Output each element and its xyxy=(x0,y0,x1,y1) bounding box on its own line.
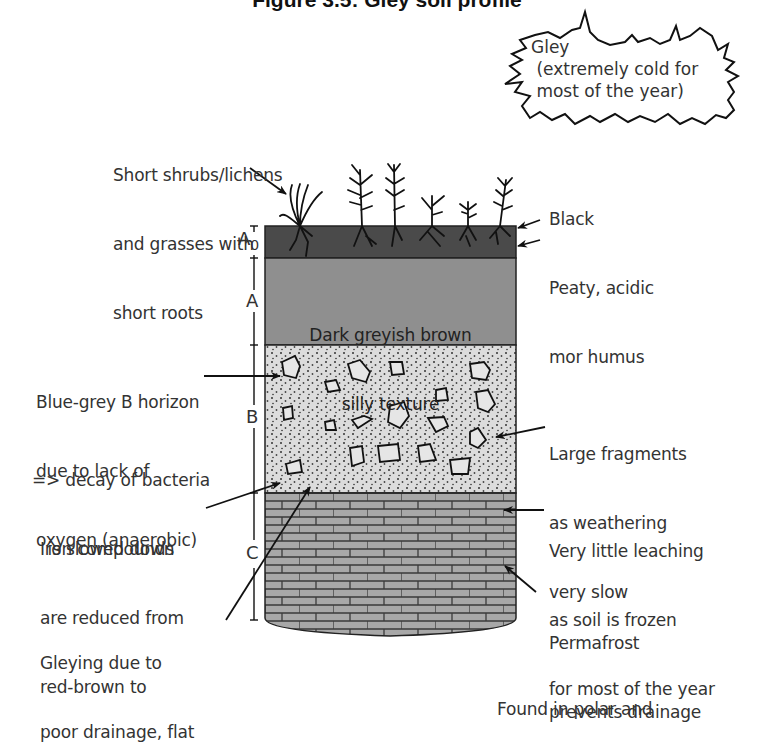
annotation-vegetation: Short shrubs/lichens and grasses with sh… xyxy=(113,118,282,348)
callout-title: Gley xyxy=(531,36,569,58)
horizon-a-description: Dark greyish brown silly texture xyxy=(265,278,516,439)
decay-line-1: => decay of bacteria xyxy=(32,469,210,492)
vegetation-line-3: short roots xyxy=(113,302,282,325)
peaty-line-1: Peaty, acidic xyxy=(549,277,654,300)
annotation-found: Found in polar and arctic regions xyxy=(497,652,652,742)
blue-grey-line-1: Blue-grey B horizon xyxy=(36,391,199,414)
leaching-line-1: Very little leaching xyxy=(549,540,715,563)
peaty-line-2: mor humus xyxy=(549,346,654,369)
vegetation-line-2: and grasses with xyxy=(113,233,282,256)
annotation-peaty: Peaty, acidic mor humus xyxy=(549,231,654,392)
annotation-gleying: Gleying due to poor drainage, flat land … xyxy=(40,606,213,742)
iron-line-1: Iron compounds xyxy=(40,538,184,561)
horizon-a-text-1: Dark greyish brown xyxy=(265,324,516,347)
horizon-label-c: C xyxy=(246,542,259,563)
gleying-line-1: Gleying due to xyxy=(40,652,213,675)
horizon-a-text-2: silly texture xyxy=(265,393,516,416)
horizon-c xyxy=(265,493,516,636)
gleying-line-2: poor drainage, flat xyxy=(40,721,213,742)
callout-line3: most of the year) xyxy=(531,80,684,102)
callout-line2: (extremely cold for xyxy=(531,58,698,80)
vegetation-line-1: Short shrubs/lichens xyxy=(113,164,282,187)
found-line-1: Found in polar and xyxy=(497,698,652,721)
fragments-line-1: Large fragments xyxy=(549,443,687,466)
horizon-label-b: B xyxy=(246,406,258,427)
annotation-black: Black xyxy=(549,208,594,231)
